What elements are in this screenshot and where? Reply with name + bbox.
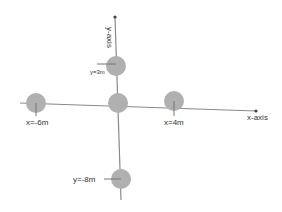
x-axis-label: x-axis bbox=[247, 113, 268, 122]
label-left: x=-6m bbox=[26, 118, 49, 127]
y-axis-label: y-axis bbox=[105, 27, 114, 48]
label-top: y=3m bbox=[90, 69, 105, 75]
x-axis-line bbox=[20, 103, 256, 111]
y-axis-arrow-icon bbox=[113, 15, 116, 18]
mass-origin bbox=[108, 93, 128, 113]
coordinate-diagram: y-axis x-axis y=3m x=-6m x=4m y=-8m bbox=[0, 0, 282, 212]
label-right: x=4m bbox=[164, 118, 184, 127]
mass-top bbox=[106, 56, 126, 76]
label-bottom: y=-8m bbox=[73, 175, 96, 184]
